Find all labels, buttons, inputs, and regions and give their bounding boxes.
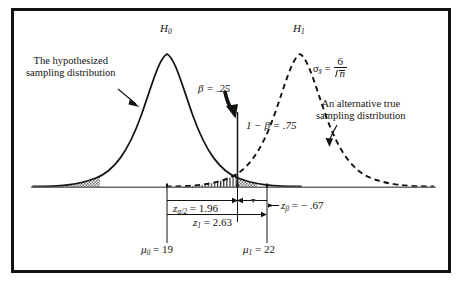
h0-label: H0 [160, 22, 172, 36]
statistical-power-figure: H0 H1 The hypothesized sampling distribu… [0, 0, 462, 283]
beta-region-shading [166, 100, 238, 188]
beta-callout-arrow [225, 92, 238, 119]
z-beta-pointer [268, 203, 279, 207]
power-label: 1 − β = .75 [246, 119, 297, 131]
alternative-distribution-caption: An alternative true sampling distributio… [316, 98, 406, 122]
mu0-axis-label: μ0 = 19 [141, 243, 173, 257]
beta-label: β = .25 [198, 82, 230, 94]
mu1-axis-label: μ1 = 22 [243, 243, 275, 257]
standard-error-formula: σx̄ = 6 n [313, 56, 347, 79]
z-alpha-measure-label: zα/2 = 1.96 [173, 202, 218, 216]
distribution-plot [0, 0, 462, 283]
right-caption-leader-arrow [326, 125, 338, 147]
hypothesized-distribution-caption: The hypothesized sampling distribution [26, 55, 116, 79]
alpha-lower-tail-shading [33, 120, 100, 188]
z1-measure-label: z1 = 2.63 [193, 216, 232, 230]
z-beta-measure-label: zβ = − .67 [281, 199, 323, 213]
h1-label: H1 [293, 22, 305, 36]
left-caption-leader-arrow [118, 89, 140, 107]
